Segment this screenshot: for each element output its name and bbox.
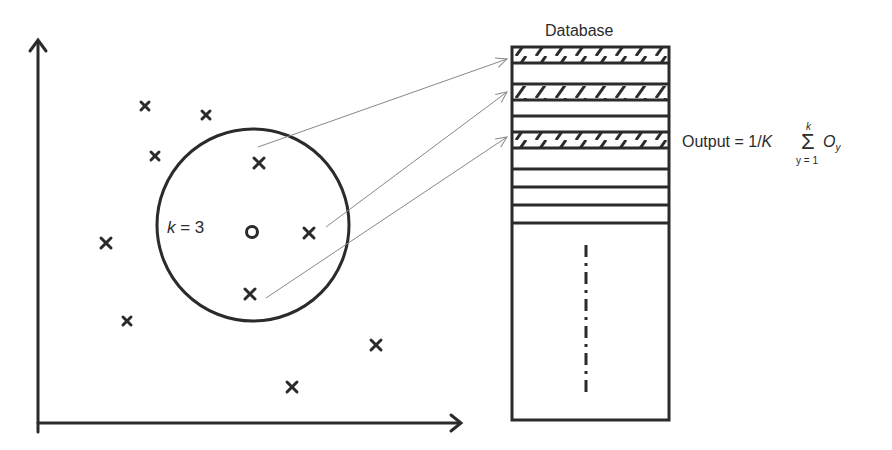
database-title: Database <box>545 22 614 40</box>
database-frame <box>512 47 669 420</box>
y-axis <box>30 40 46 432</box>
data-point-icon <box>101 238 111 248</box>
arrow-neighbour-2 <box>326 92 507 227</box>
data-point-icon <box>202 111 210 119</box>
data-point-icon <box>141 102 149 110</box>
sigma-symbol: Σ <box>801 129 815 155</box>
k-variable: k <box>167 218 176 237</box>
data-point-icon <box>371 340 381 350</box>
arrow-neighbour-3 <box>266 137 507 298</box>
neighbour-point-icon <box>304 228 314 238</box>
x-axis <box>38 415 461 431</box>
data-point-icon <box>287 382 297 392</box>
formula-K: K <box>762 133 773 150</box>
k-label: k = 3 <box>167 218 204 238</box>
k-value: = 3 <box>176 218 205 237</box>
data-points <box>101 102 381 392</box>
output-formula: Output = 1/K Σ k y = 1 Oy <box>682 133 772 151</box>
arrow-neighbour-1 <box>258 59 507 147</box>
lookup-arrows <box>258 59 507 298</box>
knn-diagram-canvas <box>0 0 892 450</box>
neighbour-point-icon <box>254 158 264 168</box>
formula-lhs: Output = 1/ <box>682 133 762 150</box>
query-point-icon <box>247 227 258 238</box>
sum-upper-limit: k <box>806 121 811 132</box>
data-point-icon <box>151 152 159 160</box>
database <box>511 47 670 420</box>
sum-lower-limit: y = 1 <box>796 155 818 166</box>
neighbour-point-icon <box>245 289 255 299</box>
formula-term: Oy <box>823 133 840 153</box>
data-point-icon <box>123 317 131 325</box>
